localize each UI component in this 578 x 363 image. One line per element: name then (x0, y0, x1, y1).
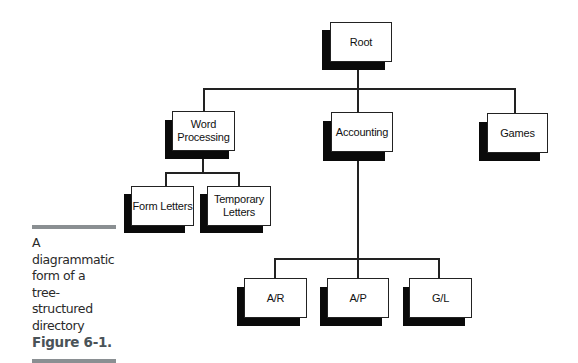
edge-accounting-stem (357, 161, 359, 259)
edge-to-ap (357, 258, 359, 278)
node-label-ap: A/P (349, 292, 366, 305)
node-box-root: Root (330, 22, 392, 62)
node-box-ar: A/R (244, 278, 307, 318)
edge-to-games (514, 88, 516, 113)
edge-to-accounting (357, 88, 359, 112)
node-label-gl: G/L (432, 292, 449, 305)
edge-to-ar (274, 258, 276, 278)
edge-to-gl (438, 258, 440, 278)
node-label-accounting: Accounting (336, 126, 388, 139)
node-box-accounting: Accounting (331, 112, 393, 152)
caption-top-rule (32, 225, 116, 229)
node-box-games: Games (487, 113, 548, 153)
edge-word-processing-bus (165, 172, 239, 174)
node-label-form-letters: Form Letters (133, 200, 193, 213)
edge-to-form-letters (165, 172, 167, 186)
edge-to-word-processing (203, 88, 205, 111)
node-box-form-letters: Form Letters (131, 186, 194, 226)
edge-to-temporary-letters (238, 172, 240, 186)
edge-root-bus (203, 88, 516, 90)
edge-word-processing-stem (202, 159, 204, 173)
node-label-root: Root (350, 36, 372, 49)
node-label-word-processing: Word Processing (177, 118, 229, 144)
caption-text: A diagrammatic form of a tree- structure… (32, 235, 116, 334)
node-label-temporary-letters: Temporary Letters (214, 193, 264, 219)
node-box-word-processing: Word Processing (172, 111, 235, 151)
node-label-ar: A/R (267, 292, 285, 305)
figure-caption: A diagrammatic form of a tree- structure… (32, 225, 116, 363)
node-box-gl: G/L (409, 278, 472, 318)
node-box-temporary-letters: Temporary Letters (207, 186, 271, 226)
figure-label: Figure 6-1. (32, 334, 116, 351)
node-label-games: Games (500, 127, 534, 140)
node-box-ap: A/P (327, 278, 389, 318)
caption-bottom-rule (32, 359, 116, 363)
